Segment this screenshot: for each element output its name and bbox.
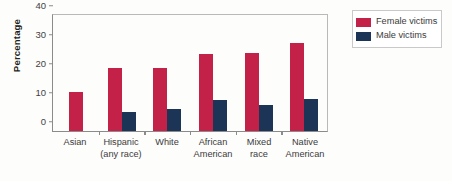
bar-female-victims[interactable] — [290, 43, 304, 131]
y-axis-tick-mark — [49, 5, 53, 6]
y-axis-tick-label: 10 — [35, 88, 49, 98]
bar-group — [281, 15, 327, 131]
y-axis-tick-label: 30 — [35, 30, 49, 40]
bar-female-victims[interactable] — [153, 68, 167, 131]
y-axis-tick: 0 — [41, 117, 53, 127]
x-axis-tick-mark — [236, 131, 237, 135]
legend-color-swatch — [356, 18, 371, 27]
x-axis-tick-mark — [281, 131, 282, 135]
bar-male-victims[interactable] — [167, 109, 181, 131]
y-axis-tick: 40 — [35, 1, 53, 11]
chart-legend: Female victimsMale victims — [352, 10, 442, 48]
y-axis-tick: 30 — [35, 30, 53, 40]
legend-item-label: Female victims — [376, 17, 437, 26]
bar-male-victims[interactable] — [213, 100, 227, 131]
x-axis-tick-mark — [190, 131, 191, 135]
x-axis-category-label: Hispanic(any race) — [98, 137, 144, 160]
y-axis-tick: 20 — [35, 59, 53, 69]
bar-group — [99, 15, 145, 131]
y-axis-title: Percentage — [11, 6, 22, 86]
x-axis-category-label: AfricanAmerican — [190, 137, 236, 160]
bar-male-victims[interactable] — [304, 99, 318, 131]
bar-female-victims[interactable] — [69, 92, 83, 131]
y-axis-tick-label: 40 — [35, 1, 49, 11]
bar-female-victims[interactable] — [108, 68, 122, 131]
bar-group — [190, 15, 236, 131]
x-axis-category-label: Mixedrace — [236, 137, 282, 160]
bar-male-victims[interactable] — [122, 112, 136, 131]
bar-group — [236, 15, 282, 131]
chart-figure: Percentage 010203040 AsianHispanic(any r… — [0, 0, 452, 181]
bar-female-victims[interactable] — [199, 54, 213, 131]
legend-item-label: Male victims — [376, 31, 427, 40]
x-axis-category-label: White — [144, 137, 190, 160]
bar-group — [144, 15, 190, 131]
x-axis-category-labels: AsianHispanic(any race)WhiteAfricanAmeri… — [52, 137, 328, 160]
legend-color-swatch — [356, 32, 371, 41]
plot-area: 010203040 — [52, 14, 328, 132]
bar-female-victims[interactable] — [245, 53, 259, 131]
y-axis-tick-label: 0 — [41, 117, 49, 127]
x-axis-category-label: Asian — [52, 137, 98, 160]
y-axis-tick-label: 20 — [35, 59, 49, 69]
x-axis-tick-mark — [144, 131, 145, 135]
x-axis-tick-mark — [99, 131, 100, 135]
bars-container — [53, 15, 327, 131]
legend-item[interactable]: Female victims — [356, 15, 437, 29]
bar-male-victims[interactable] — [259, 105, 273, 131]
bar-group — [53, 15, 99, 131]
x-axis-category-label: NativeAmerican — [282, 137, 328, 160]
y-axis-tick: 10 — [35, 88, 53, 98]
legend-item[interactable]: Male victims — [356, 29, 437, 43]
